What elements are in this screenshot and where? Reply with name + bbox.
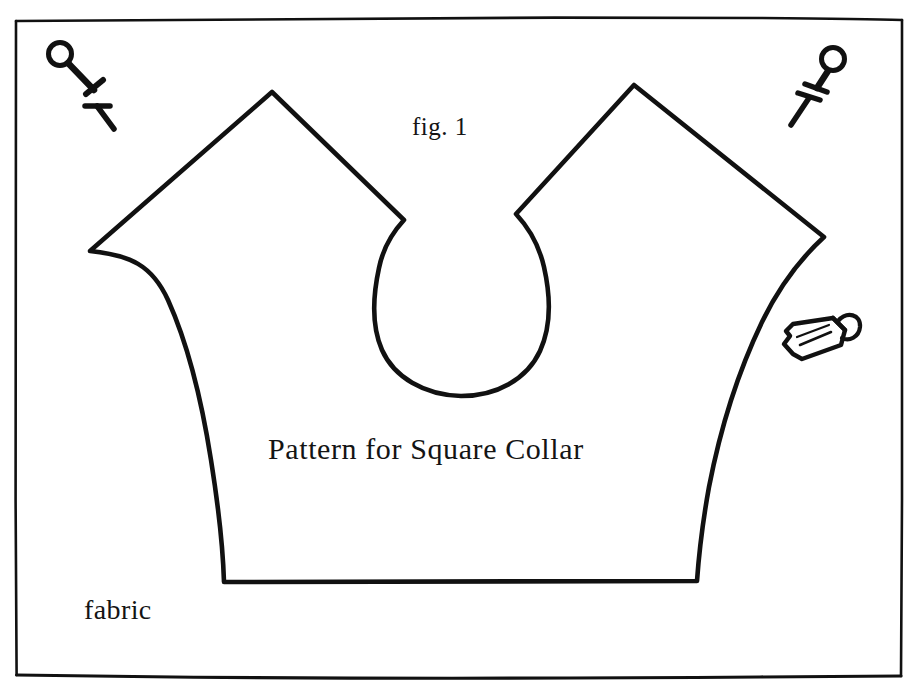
figure-number-label: fig. 1 (412, 114, 468, 139)
push-pin-icon (49, 43, 115, 130)
fabric-label: fabric (84, 596, 152, 624)
pattern-title-label: Pattern for Square Collar (268, 434, 584, 464)
collar-pattern-outline (90, 85, 824, 582)
pencil-icon (784, 315, 860, 359)
push-pin-icon (791, 48, 845, 126)
pattern-illustration: fig. 1 Pattern for Square Collar fabric (0, 0, 922, 697)
figure-canvas (0, 0, 922, 697)
